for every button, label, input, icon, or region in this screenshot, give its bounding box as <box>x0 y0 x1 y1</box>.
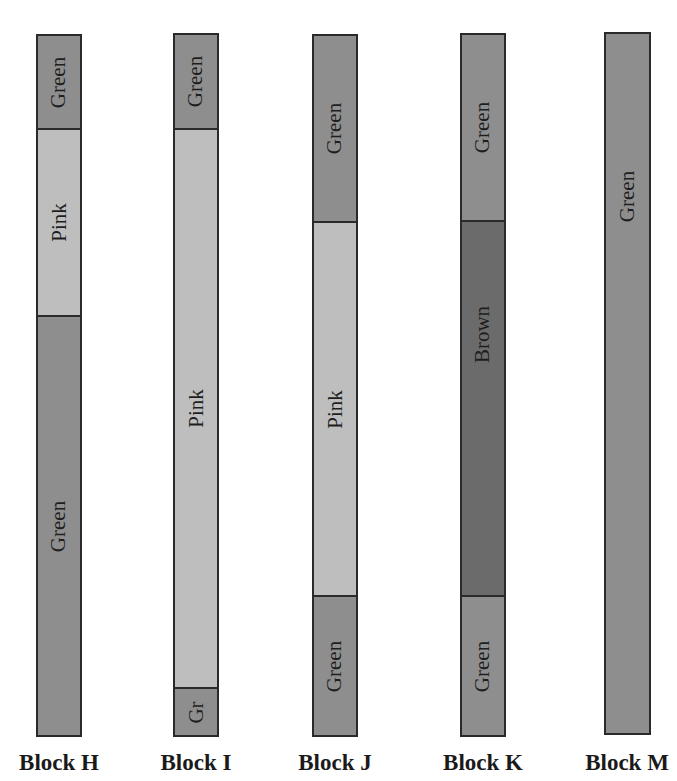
block-j-label: Block J <box>298 750 371 776</box>
segment-label: Green <box>323 640 348 691</box>
block-k-segment-2: Brown <box>460 220 506 597</box>
segment-label: Brown <box>471 306 496 363</box>
block-i: Green Pink Gr <box>173 33 219 737</box>
block-k-label: Block K <box>443 750 523 776</box>
block-h-segment-1: Green <box>36 34 82 130</box>
block-i-segment-2: Pink <box>173 128 219 689</box>
block-k: Green Brown Green <box>460 33 506 737</box>
segment-label: Pink <box>46 203 71 242</box>
block-h-segment-3: Green <box>36 315 82 737</box>
segment-label: Green <box>47 500 72 551</box>
segment-label: Green <box>471 640 496 691</box>
block-j-segment-3: Green <box>312 595 358 737</box>
block-i-segment-3: Gr <box>173 687 219 737</box>
block-j-segment-2: Pink <box>312 221 358 597</box>
block-i-label: Block I <box>161 750 232 776</box>
block-h-label: Block H <box>19 750 99 776</box>
block-k-segment-3: Green <box>460 595 506 737</box>
block-m-label: Block M <box>585 750 669 776</box>
block-h-segment-2: Pink <box>36 128 82 317</box>
segment-label: Green <box>615 171 640 222</box>
segment-label: Pink <box>183 389 208 428</box>
segment-label: Pink <box>322 390 347 429</box>
block-j-segment-1: Green <box>312 34 358 223</box>
block-k-segment-1: Green <box>460 33 506 222</box>
segment-label: Gr <box>183 701 208 723</box>
block-i-segment-1: Green <box>173 33 219 130</box>
segment-label: Green <box>184 56 209 107</box>
segment-label: Green <box>323 103 348 154</box>
block-j: Green Pink Green <box>312 34 358 737</box>
segment-label: Green <box>47 56 72 107</box>
block-m-segment-1: Green <box>604 32 651 735</box>
block-m: Green <box>604 32 651 735</box>
segment-label: Green <box>471 102 496 153</box>
block-h: Green Pink Green <box>36 34 82 737</box>
